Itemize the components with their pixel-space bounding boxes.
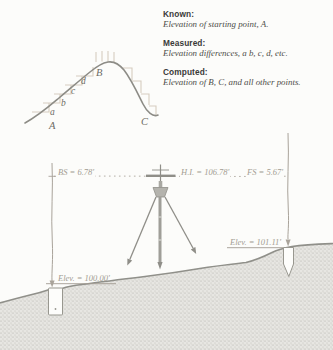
backsight-label: BS = 6.78' xyxy=(57,168,95,177)
left-benchmark-stake xyxy=(49,288,63,315)
info-block-computed: Computed: Elevation of B, C, and all oth… xyxy=(163,68,333,87)
instrument-height-label: H.I. = 106.78' xyxy=(180,168,230,177)
left-leveling-rod xyxy=(49,163,56,288)
hill-point-C: C xyxy=(141,117,148,128)
info-block-known: Known: Elevation of starting point, A. xyxy=(163,10,333,29)
hill-point-A: A xyxy=(49,121,55,132)
right-leveling-rod xyxy=(286,133,291,247)
hill-point-b: b xyxy=(61,99,66,109)
elevation-left-label: Elev. = 100.00' xyxy=(57,274,111,283)
right-rod-arrowhead xyxy=(286,240,291,247)
known-text: Elevation of starting point, A. xyxy=(163,19,333,29)
foresight-label: FS = 5.67' xyxy=(246,168,284,177)
hill-point-c: c xyxy=(71,87,75,97)
elevation-right-label: Elev. = 101.11' xyxy=(229,238,282,247)
computed-label: Computed: xyxy=(163,68,333,77)
hill-profile-sketch xyxy=(25,51,158,123)
measured-text: Elevation differences, a b, c, d, etc. xyxy=(163,48,333,58)
info-panel: Known: Elevation of starting point, A. M… xyxy=(163,10,333,97)
measured-label: Measured: xyxy=(163,39,333,48)
figure-leveling-diagram: Known: Elevation of starting point, A. M… xyxy=(0,0,333,350)
computed-text: Elevation of B, C, and all other points. xyxy=(163,77,333,87)
hill-curve xyxy=(25,62,158,123)
hill-point-d: d xyxy=(81,77,86,87)
hill-point-a: a xyxy=(50,108,55,118)
info-block-measured: Measured: Elevation differences, a b, c,… xyxy=(163,39,333,58)
hill-point-B: B xyxy=(96,68,102,79)
level-instrument-tripod xyxy=(127,165,196,270)
known-label: Known: xyxy=(163,10,333,19)
